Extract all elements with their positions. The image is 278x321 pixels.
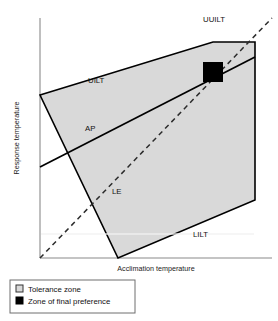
zone-of-final-preference-marker (203, 62, 223, 82)
label-uilt: UILT (88, 76, 105, 85)
tolerance-polygon-diagram: UUILT UILT AP LE LILT Acclimation temper… (0, 0, 278, 321)
label-lilt: LILT (193, 230, 208, 239)
label-uuilt: UUILT (203, 15, 225, 24)
legend: Tolerance zone Zone of final preference (10, 280, 135, 313)
legend-label-tolerance-zone: Tolerance zone (28, 285, 81, 294)
legend-swatch-zone-of-final-preference (16, 297, 23, 304)
label-le: LE (112, 187, 122, 196)
y-axis-title: Response temperature (12, 101, 21, 174)
diagram-canvas: UUILT UILT AP LE LILT Acclimation temper… (0, 0, 278, 321)
legend-label-zone-of-final-preference: Zone of final preference (28, 297, 110, 306)
legend-swatch-tolerance-zone (16, 285, 23, 292)
legend-item-zone-of-final-preference: Zone of final preference (16, 297, 110, 306)
x-axis-title: Acclimation temperature (117, 264, 195, 273)
label-ap: AP (85, 124, 95, 133)
